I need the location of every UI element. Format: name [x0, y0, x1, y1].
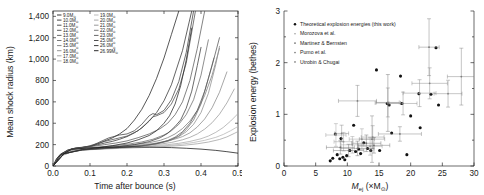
data-point: [348, 150, 350, 152]
data-point: [365, 142, 367, 144]
data-point: [434, 46, 437, 49]
data-point: [341, 133, 343, 135]
xlabel-rest: (×M: [363, 181, 380, 191]
right-y-tick-label: 1: [275, 110, 280, 119]
right-y-tick-label: 3: [275, 7, 280, 16]
data-point: [429, 82, 431, 84]
data-point: [378, 149, 381, 152]
error-bar-marker: [326, 124, 346, 147]
data-point: [428, 46, 430, 48]
error-bar-marker: [338, 85, 376, 116]
right-legend-marker: [294, 42, 296, 44]
right-legend-marker: [294, 33, 296, 35]
right-y-axis-title: Explosion energy (bethes): [248, 42, 258, 142]
data-point: [402, 103, 404, 105]
svg-text:Mej (×M⊙): Mej (×M⊙): [352, 181, 389, 192]
right-x-tick-label: 10: [343, 169, 353, 178]
right-y-tick-label: 2: [275, 59, 280, 68]
left-x-tick-label: 0.2: [121, 169, 133, 178]
error-bar-marker: [326, 141, 354, 154]
data-point: [399, 133, 401, 135]
explosion-energy-plot: 0123051015202530 Theoretical explosion e…: [242, 0, 484, 195]
series-curve: [53, 114, 238, 166]
shock-radius-plot: 02004006008001,0001,2001,4000.00.10.20.3…: [0, 0, 242, 195]
data-point: [460, 76, 462, 78]
error-bar-marker: [361, 126, 384, 149]
data-point: [387, 102, 389, 104]
data-point: [352, 124, 355, 127]
right-y-tick-label: 0: [275, 162, 280, 171]
left-y-tick-label: 1,000: [29, 55, 50, 64]
error-bar-marker: [434, 80, 462, 107]
data-point: [373, 144, 375, 146]
right-x-tick-label: 15: [374, 169, 384, 178]
xlabel-close: ): [386, 181, 389, 191]
series-curve: [53, 72, 227, 166]
left-y-axis-title: Mean shock radius (km): [5, 46, 15, 138]
data-point: [375, 68, 378, 71]
error-bar-marker: [447, 48, 475, 105]
right-x-axis-title: Mej (×M⊙): [352, 181, 389, 192]
data-point: [339, 137, 342, 140]
data-point: [372, 136, 374, 138]
data-point: [447, 93, 449, 95]
data-point: [359, 152, 362, 155]
error-bar-marker: [389, 92, 417, 115]
data-point: [338, 157, 341, 160]
right-legend-marker: [294, 52, 296, 54]
left-curve-group: [53, 11, 238, 166]
explosion-energy-panel: 0123051015202530 Theoretical explosion e…: [242, 0, 484, 195]
error-bar-marker: [403, 80, 436, 107]
error-bar-marker: [359, 116, 384, 163]
right-legend-marker: [294, 61, 296, 63]
right-legend-label: Utrobin & Chugai: [300, 59, 340, 65]
left-x-tick-label: 0.4: [195, 169, 207, 178]
right-x-tick-label: 5: [313, 169, 318, 178]
right-x-tick-label: 20: [406, 169, 416, 178]
error-bar-marker: [335, 125, 349, 142]
data-point: [343, 158, 346, 161]
right-legend-marker: [294, 23, 296, 25]
data-point: [419, 126, 422, 129]
left-y-tick-label: 600: [35, 98, 49, 107]
right-point-group: [326, 19, 475, 163]
error-bar-marker: [358, 138, 390, 154]
two-panel-figure: 02004006008001,0001,2001,4000.00.10.20.3…: [0, 0, 484, 195]
right-x-tick-label: 0: [282, 169, 287, 178]
data-point: [409, 114, 412, 117]
shock-radius-panel: 02004006008001,0001,2001,4000.00.10.20.3…: [0, 0, 242, 195]
data-point: [331, 157, 334, 160]
left-x-tick-label: 0.3: [158, 169, 170, 178]
data-point: [369, 145, 371, 147]
data-point: [357, 148, 359, 150]
error-bar-marker: [352, 135, 381, 152]
data-point: [329, 159, 332, 162]
left-x-tick-label: 0.0: [47, 169, 59, 178]
error-bar-marker: [376, 88, 399, 117]
data-point: [336, 153, 339, 156]
data-point: [399, 75, 402, 78]
left-x-axis-title: Time after bounce (s): [94, 181, 175, 191]
left-y-tick-label: 1,400: [29, 12, 50, 21]
data-point: [405, 153, 408, 156]
left-y-tick-label: 800: [35, 76, 49, 85]
series-curve: [53, 89, 234, 166]
data-point: [357, 100, 359, 102]
error-bar-marker: [412, 68, 447, 99]
left-y-tick-label: 200: [35, 141, 49, 150]
right-legend-label: Pumo et al.: [300, 49, 326, 55]
left-y-tick-label: 1,200: [29, 34, 50, 43]
right-x-tick-label: 30: [469, 169, 479, 178]
right-legend-label: Morozova et al.: [300, 30, 335, 36]
left-y-tick-label: 400: [35, 119, 49, 128]
data-point: [437, 103, 440, 106]
right-x-tick-label: 25: [438, 169, 448, 178]
data-point: [341, 156, 344, 159]
data-point: [335, 134, 337, 136]
data-point: [419, 92, 421, 94]
left-x-tick-label: 0.1: [84, 169, 96, 178]
right-legend-label: Theoretical explosion energies (this wor…: [300, 21, 396, 27]
error-bar-marker: [419, 19, 439, 76]
right-legend-label: Martinez & Bernsten: [300, 40, 347, 46]
left-x-tick-label: 0.5: [232, 169, 242, 178]
